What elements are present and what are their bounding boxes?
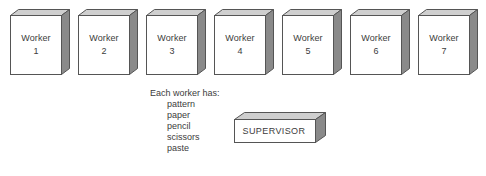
worker-box-7: Worker 7	[418, 9, 478, 75]
supplies-block: Each worker has: pattern paper pencil sc…	[150, 88, 220, 154]
worker-box-6: Worker 6	[350, 9, 410, 75]
list-item: paper	[167, 110, 220, 121]
cube-3d-shape	[10, 9, 70, 75]
cube-3d-shape	[146, 9, 206, 75]
cube-3d-shape	[78, 9, 138, 75]
workers-supervisor-diagram: Worker 1 Worker 2 Worker 3	[0, 0, 486, 176]
worker-box-3: Worker 3	[146, 9, 206, 75]
supervisor-box: SUPERVISOR	[234, 112, 326, 143]
worker-box-2: Worker 2	[78, 9, 138, 75]
cube-3d-shape	[418, 9, 478, 75]
worker-box-4: Worker 4	[214, 9, 274, 75]
list-item: paste	[167, 143, 220, 154]
cube-3d-shape	[282, 9, 342, 75]
cube-3d-shape	[350, 9, 410, 75]
supplies-list: pattern paper pencil scissors paste	[150, 99, 220, 154]
worker-box-1: Worker 1	[10, 9, 70, 75]
list-item: scissors	[167, 132, 220, 143]
supervisor-3d-shape	[234, 112, 326, 143]
list-item: pattern	[167, 99, 220, 110]
cube-3d-shape	[214, 9, 274, 75]
worker-box-5: Worker 5	[282, 9, 342, 75]
supplies-heading: Each worker has:	[150, 88, 220, 99]
list-item: pencil	[167, 121, 220, 132]
